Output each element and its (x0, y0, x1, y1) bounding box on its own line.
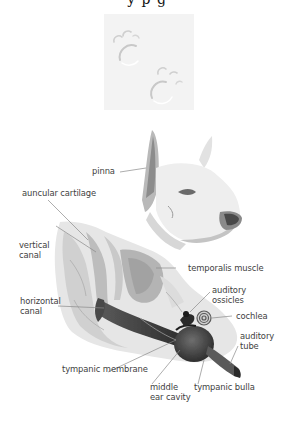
label-tympanic-membrane: tympanic membrane (62, 364, 148, 374)
label-auricular-cartilage: auncular cartilage (22, 188, 96, 198)
label-middle-ear-cavity: middle ear cavity (150, 382, 191, 402)
label-auditory-ossicles: auditory ossicles (212, 285, 246, 305)
dog-head-sketch (142, 130, 242, 250)
label-pinna: pinna (92, 166, 115, 176)
label-auditory-tube: auditory tube (240, 331, 274, 351)
label-cochlea: cochlea (236, 311, 268, 321)
label-temporalis-muscle: temporalis muscle (188, 263, 264, 273)
label-vertical-canal: vertical canal (19, 240, 49, 260)
label-horizontal-canal: horizontal canal (20, 296, 61, 316)
label-tympanic-bulla: tympanic bulla (194, 382, 255, 392)
